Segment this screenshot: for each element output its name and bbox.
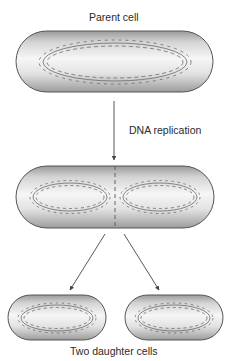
daughter-cell-left bbox=[8, 295, 106, 340]
arrow-down-left bbox=[70, 234, 105, 290]
dividing-cell bbox=[16, 166, 214, 228]
diagram-canvas bbox=[0, 0, 231, 361]
parent-cell bbox=[16, 31, 213, 92]
arrow-down-right bbox=[124, 234, 159, 290]
result-label: Two daughter cells bbox=[70, 345, 158, 357]
parent-cell-label: Parent cell bbox=[89, 11, 139, 23]
daughter-cell-right bbox=[125, 295, 223, 340]
process-label: DNA replication bbox=[129, 124, 201, 136]
